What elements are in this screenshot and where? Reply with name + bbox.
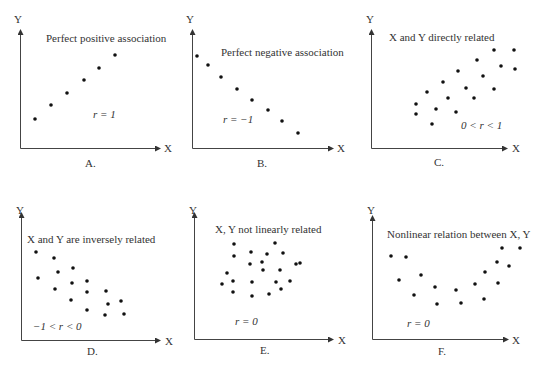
panel-label-f: F. — [438, 346, 446, 357]
data-point-d — [69, 298, 73, 302]
data-point-c — [492, 48, 496, 52]
data-point-e — [248, 262, 252, 266]
data-point-d — [52, 256, 56, 260]
data-point-d — [34, 250, 38, 254]
data-point-b — [250, 98, 254, 102]
data-point-d — [119, 299, 123, 303]
panel-title-d: X and Y are inversely related — [27, 234, 155, 245]
data-point-a — [82, 78, 86, 82]
r-value-f: r = 0 — [407, 318, 430, 329]
data-point-e — [231, 279, 235, 283]
y-axis-label-f: Y — [367, 205, 375, 216]
data-point-e — [298, 261, 302, 265]
data-point-a — [65, 91, 69, 95]
data-point-d — [85, 308, 89, 312]
data-point-c — [492, 87, 496, 91]
data-point-f — [495, 260, 499, 264]
data-point-c — [446, 96, 450, 100]
data-point-f — [454, 288, 458, 292]
data-point-f — [518, 246, 522, 250]
y-axis-label-a: Y — [14, 14, 22, 25]
data-point-f — [500, 246, 504, 250]
panel-title-f: Nonlinear relation between X, Y — [387, 229, 530, 240]
panel-label-e: E. — [260, 345, 269, 356]
data-point-c — [434, 107, 438, 111]
data-point-b — [296, 131, 300, 135]
data-point-f — [473, 282, 477, 286]
panel-title-c: X and Y directly related — [389, 32, 494, 43]
y-axis-label-e: Y — [189, 205, 197, 216]
data-point-e — [288, 279, 292, 283]
data-point-e — [273, 241, 277, 245]
panel-title-b: Perfect negative association — [221, 47, 344, 58]
y-axis-label-b: Y — [186, 14, 194, 25]
x-axis-label-c: X — [512, 143, 520, 154]
data-point-e — [279, 287, 283, 291]
x-axis-label-e: X — [338, 335, 346, 346]
r-value-a: r = 1 — [93, 109, 116, 120]
data-point-e — [260, 260, 264, 264]
y-axis-label-d: Y — [16, 205, 24, 216]
data-point-d — [53, 287, 57, 291]
data-point-c — [414, 112, 418, 116]
data-point-e — [232, 254, 236, 258]
data-point-c — [414, 102, 418, 106]
x-axis-label-a: X — [164, 143, 172, 154]
data-point-e — [232, 242, 236, 246]
data-point-c — [430, 122, 434, 126]
data-point-c — [456, 69, 460, 73]
data-point-f — [389, 254, 393, 258]
data-point-c — [454, 110, 458, 114]
data-point-d — [103, 313, 107, 317]
r-value-c: 0 < r < 1 — [461, 120, 502, 131]
data-point-f — [404, 255, 408, 259]
data-point-e — [278, 268, 282, 272]
data-point-d — [36, 276, 40, 280]
data-point-f — [482, 297, 486, 301]
data-point-f — [433, 285, 437, 289]
y-axis-label-c: Y — [366, 14, 374, 25]
data-point-a — [49, 103, 53, 107]
data-point-c — [481, 74, 485, 78]
data-point-d — [71, 266, 75, 270]
x-axis-label-b: X — [337, 143, 345, 154]
data-point-e — [250, 294, 254, 298]
data-point-a — [97, 66, 101, 70]
r-value-b: r = −1 — [223, 114, 253, 125]
data-point-f — [435, 302, 439, 306]
data-point-d — [56, 270, 60, 274]
data-point-f — [412, 293, 416, 297]
data-point-e — [220, 282, 224, 286]
data-point-f — [507, 264, 511, 268]
panel-label-d: D. — [87, 346, 98, 357]
data-point-e — [249, 250, 253, 254]
data-point-b — [195, 54, 199, 58]
data-point-c — [499, 64, 503, 68]
data-point-e — [274, 280, 278, 284]
data-point-c — [472, 96, 476, 100]
data-point-d — [106, 302, 110, 306]
data-point-e — [250, 280, 254, 284]
data-point-b — [219, 75, 223, 79]
data-point-b — [280, 119, 284, 123]
data-point-e — [281, 251, 285, 255]
data-point-b — [235, 87, 239, 91]
data-point-f — [397, 278, 401, 282]
panel-label-a: A. — [85, 158, 96, 169]
data-point-f — [483, 270, 487, 274]
data-point-d — [85, 279, 89, 283]
data-point-b — [206, 63, 210, 67]
data-point-d — [70, 281, 74, 285]
data-points — [33, 48, 522, 317]
data-point-c — [425, 90, 429, 94]
r-value-e: r = 0 — [235, 316, 258, 327]
data-point-e — [294, 262, 298, 266]
data-point-a — [33, 117, 37, 121]
data-point-e — [261, 268, 265, 272]
data-point-f — [496, 281, 500, 285]
data-point-d — [104, 289, 108, 293]
r-value-d: −1 < r < 0 — [33, 321, 82, 332]
panel-title-e: X, Y not linearly related — [215, 224, 321, 235]
x-axis-label-f: X — [512, 335, 520, 346]
data-point-c — [513, 67, 517, 71]
